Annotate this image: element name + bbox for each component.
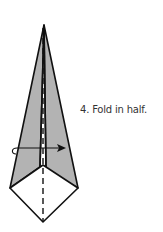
step-number: 4. (80, 104, 89, 115)
step-instruction-text: Fold in half. (92, 104, 147, 115)
step-instruction: 4. Fold in half. (80, 104, 147, 115)
right-shaded-flap (44, 25, 78, 188)
left-shaded-flap (10, 25, 44, 188)
origami-diagram (0, 0, 163, 232)
